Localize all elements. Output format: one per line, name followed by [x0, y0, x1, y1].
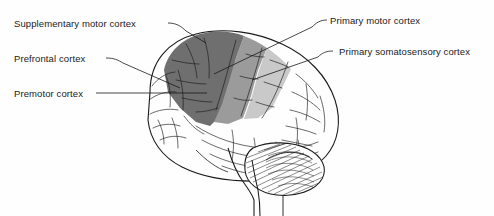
- label-prefrontal-cortex: Prefrontal cortex: [14, 53, 85, 64]
- cortical-regions: [164, 32, 291, 126]
- brain-anatomy-figure: [0, 0, 494, 216]
- temporal-pole-edge: [196, 150, 228, 172]
- brain-illustration: [96, 20, 338, 216]
- label-primary-motor-cortex: Primary motor cortex: [330, 15, 420, 26]
- label-premotor-cortex: Premotor cortex: [14, 88, 83, 99]
- label-supplementary-motor-cortex: Supplementary motor cortex: [14, 18, 136, 29]
- label-primary-somatosensory-cortex: Primary somatosensory cortex: [339, 46, 470, 57]
